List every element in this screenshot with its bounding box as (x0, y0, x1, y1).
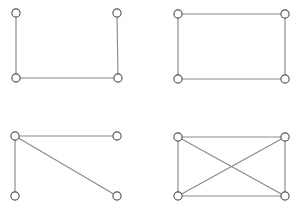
star-graph-k1-3 (11, 132, 121, 200)
graph-vertex (11, 132, 19, 140)
graph-vertex (114, 74, 122, 82)
figure-root (0, 0, 297, 208)
graph-edge (15, 136, 117, 196)
path-graph-p4 (12, 9, 122, 82)
graph-vertex (174, 192, 182, 200)
graph-vertices (174, 10, 289, 83)
graph-edge (117, 13, 118, 78)
cycle-graph-c4 (174, 10, 289, 83)
graph-vertex (12, 74, 20, 82)
graph-vertex (113, 192, 121, 200)
graph-vertices (12, 9, 122, 82)
complete-graph-k4 (174, 133, 289, 200)
graph-edges (16, 13, 118, 78)
graph-edges (178, 14, 285, 79)
graph-vertex (281, 192, 289, 200)
graph-vertex (174, 10, 182, 18)
graph-vertex (113, 9, 121, 17)
graph-edges (15, 136, 117, 196)
graph-diagram-canvas (0, 0, 297, 208)
graph-vertex (281, 10, 289, 18)
graph-vertex (174, 75, 182, 83)
graph-vertex (113, 132, 121, 140)
graph-vertex (12, 9, 20, 17)
graph-vertex (11, 192, 19, 200)
graph-vertex (281, 133, 289, 141)
graph-edges (178, 137, 285, 196)
graph-panels-layer (11, 9, 289, 200)
graph-vertex (281, 75, 289, 83)
graph-vertex (174, 133, 182, 141)
